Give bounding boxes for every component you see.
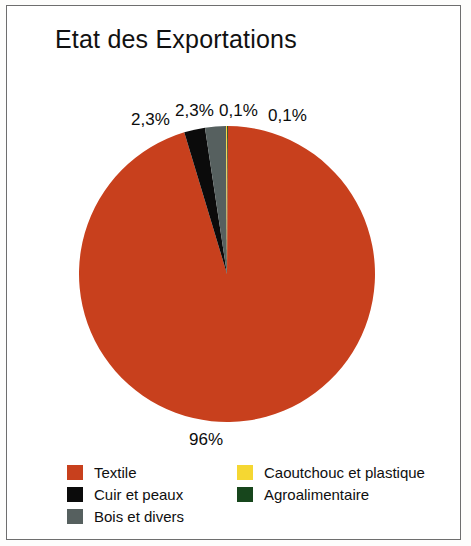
legend-label-textile: Textile: [94, 465, 137, 480]
legend-item-agroalimentaire[interactable]: Agroalimentaire: [237, 483, 425, 505]
slice-label-bois-et-divers: 2,3%: [175, 101, 214, 121]
slice-label-textile: 96%: [189, 430, 223, 450]
screenshot-root: Etat des Exportations 2,3% 2,3% 0,1% 0,1…: [0, 0, 471, 546]
swatch-agroalimentaire: [237, 487, 253, 502]
legend-label-bois-et-divers: Bois et divers: [94, 509, 184, 524]
chart-legend: Textile Cuir et peaux Bois et divers Cao…: [59, 461, 459, 531]
pie-chart: [79, 126, 389, 438]
legend-label-agroalimentaire: Agroalimentaire: [264, 487, 369, 502]
legend-item-caoutchouc-et-plastique[interactable]: Caoutchouc et plastique: [237, 461, 425, 483]
slice-label-cuir-et-peaux: 2,3%: [131, 110, 170, 130]
slice-label-caoutchouc-et-plastique: 0,1%: [219, 101, 258, 121]
swatch-cuir-et-peaux: [67, 487, 83, 502]
swatch-caoutchouc-et-plastique: [237, 465, 253, 480]
slice-label-agroalimentaire: 0,1%: [268, 106, 307, 126]
swatch-bois-et-divers: [67, 509, 83, 524]
chart-title: Etat des Exportations: [55, 25, 297, 54]
swatch-textile: [67, 465, 83, 480]
legend-item-bois-et-divers[interactable]: Bois et divers: [67, 505, 184, 527]
legend-item-textile[interactable]: Textile: [67, 461, 184, 483]
legend-label-cuir-et-peaux: Cuir et peaux: [94, 487, 183, 502]
chart-frame: Etat des Exportations 2,3% 2,3% 0,1% 0,1…: [6, 5, 461, 540]
pie-svg: [79, 126, 389, 438]
legend-column-2: Caoutchouc et plastique Agroalimentaire: [237, 461, 425, 505]
pie-slices: [79, 126, 375, 422]
legend-item-cuir-et-peaux[interactable]: Cuir et peaux: [67, 483, 184, 505]
legend-label-caoutchouc-et-plastique: Caoutchouc et plastique: [264, 465, 425, 480]
legend-column-1: Textile Cuir et peaux Bois et divers: [67, 461, 184, 527]
